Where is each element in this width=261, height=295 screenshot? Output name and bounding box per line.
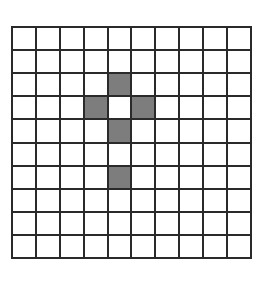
grid-cell	[156, 97, 180, 120]
grid-cell	[37, 236, 61, 259]
grid-cell	[37, 167, 61, 190]
grid-cell	[132, 120, 156, 143]
grid-cell	[132, 144, 156, 167]
grid-cell	[132, 236, 156, 259]
grid-cell	[61, 120, 85, 143]
grid-cell	[228, 51, 252, 74]
grid-cell	[204, 120, 228, 143]
grid-cell	[37, 74, 61, 97]
grid-cell	[109, 97, 133, 120]
grid-cell	[37, 120, 61, 143]
grid-cell	[156, 51, 180, 74]
grid-cell	[180, 97, 204, 120]
grid-cell	[228, 97, 252, 120]
grid-cell	[61, 213, 85, 236]
grid-cell	[109, 236, 133, 259]
grid-cell	[228, 28, 252, 51]
grid-cell	[109, 190, 133, 213]
grid-cell	[61, 144, 85, 167]
grid-cell	[228, 120, 252, 143]
grid-cell	[228, 236, 252, 259]
grid-cell	[85, 236, 109, 259]
grid-cell	[85, 144, 109, 167]
grid-cell	[204, 51, 228, 74]
grid-diagram	[11, 26, 252, 259]
grid-cell	[156, 190, 180, 213]
grid-cell	[13, 97, 37, 120]
grid-cell	[132, 28, 156, 51]
grid-cell	[204, 213, 228, 236]
grid-cell	[13, 236, 37, 259]
grid-cell	[204, 236, 228, 259]
grid-cell	[85, 74, 109, 97]
grid-cell	[156, 167, 180, 190]
grid-cell	[61, 74, 85, 97]
grid-cell	[13, 74, 37, 97]
grid-cell	[228, 167, 252, 190]
grid-cell	[156, 144, 180, 167]
grid-cell	[132, 190, 156, 213]
grid-cell	[204, 167, 228, 190]
grid-cell	[132, 213, 156, 236]
grid-cell	[156, 213, 180, 236]
grid-cell	[109, 51, 133, 74]
grid-cell	[228, 144, 252, 167]
grid-cell	[61, 51, 85, 74]
grid-cell	[85, 213, 109, 236]
grid-cell	[132, 74, 156, 97]
grid-cell	[180, 190, 204, 213]
shaded-cell	[109, 167, 133, 190]
grid-cell	[61, 28, 85, 51]
grid-cell	[204, 97, 228, 120]
grid-cell	[37, 190, 61, 213]
grid-cell	[85, 51, 109, 74]
grid-cell	[37, 51, 61, 74]
grid-cell	[61, 97, 85, 120]
grid-cell	[156, 28, 180, 51]
grid-cell	[156, 120, 180, 143]
grid-cell	[204, 190, 228, 213]
grid-cell	[109, 213, 133, 236]
grid-cell	[13, 167, 37, 190]
grid-cell	[13, 144, 37, 167]
grid-cell	[180, 213, 204, 236]
grid-cell	[109, 144, 133, 167]
grid-cell	[13, 213, 37, 236]
shaded-cell	[132, 97, 156, 120]
grid-cell	[228, 190, 252, 213]
grid-cell	[13, 28, 37, 51]
grid-cell	[180, 167, 204, 190]
grid-cell	[61, 236, 85, 259]
grid-cell	[61, 167, 85, 190]
grid-cell	[85, 28, 109, 51]
shaded-cell	[109, 120, 133, 143]
grid-cell	[228, 74, 252, 97]
grid-cell	[85, 190, 109, 213]
grid-cell	[61, 190, 85, 213]
grid-cell	[180, 144, 204, 167]
grid-cell	[180, 120, 204, 143]
grid-cell	[13, 120, 37, 143]
grid-cell	[180, 74, 204, 97]
grid-cell	[156, 236, 180, 259]
grid-cell	[37, 213, 61, 236]
grid-cell	[204, 74, 228, 97]
grid-cell	[132, 167, 156, 190]
grid-cell	[204, 28, 228, 51]
shaded-cell	[109, 74, 133, 97]
grid-cell	[37, 97, 61, 120]
grid-cell	[109, 28, 133, 51]
grid-cell	[156, 74, 180, 97]
grid-cell	[85, 167, 109, 190]
grid-cell	[37, 144, 61, 167]
grid-cell	[13, 51, 37, 74]
grid-cell	[13, 190, 37, 213]
grid-cell	[180, 28, 204, 51]
grid-cell	[180, 236, 204, 259]
grid-cell	[180, 51, 204, 74]
grid-cell	[85, 120, 109, 143]
grid-cell	[228, 213, 252, 236]
grid-cell	[37, 28, 61, 51]
shaded-cell	[85, 97, 109, 120]
grid-cell	[132, 51, 156, 74]
